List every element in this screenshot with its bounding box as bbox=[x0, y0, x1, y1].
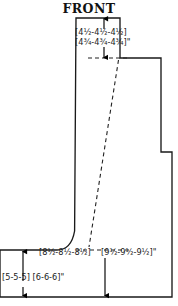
neck-depth-label-line1: [4½-4½-4½] bbox=[75, 27, 127, 38]
dashed-center-line bbox=[89, 60, 119, 247]
total-length-label: [9½-9½-9½]" bbox=[101, 247, 157, 258]
neck-depth-label-line2: [4¾-4¾-4¾]" bbox=[75, 37, 131, 48]
chest-width-label: [8½-8½-8½] bbox=[39, 247, 91, 258]
front-schematic: FRONT [4½-4½-4½] [4¾-4¾-4¾]" [8½-8½-8½] … bbox=[0, 0, 178, 306]
hem-height-label: [5-5-5] [6-6-6]" bbox=[2, 272, 64, 283]
